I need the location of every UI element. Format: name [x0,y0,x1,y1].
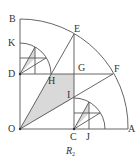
small-diag1-C [74,102,89,129]
label-H: H [48,76,55,86]
label-E: E [74,24,80,34]
small-diag1-D [20,47,35,74]
caption-subscript: 2 [72,151,75,157]
label-O: O [8,124,15,134]
label-K: K [8,38,15,48]
label-F: F [114,64,120,74]
small-arc-I [74,98,105,129]
label-A: A [128,124,135,134]
point-C [73,128,75,130]
small-diag2-D [20,58,46,74]
geometry-figure: B K D O E G F H I C J A R2 [0,0,140,160]
label-C: C [70,132,77,142]
small-diag2-C [74,113,100,129]
label-I: I [67,90,70,100]
label-G: G [78,63,85,73]
small-arc-KH [20,43,51,74]
label-B: B [9,14,16,24]
label-D: D [8,69,15,79]
point-D [19,73,21,75]
figure-caption: R2 [66,146,75,159]
label-J: J [86,132,90,142]
point-O [19,128,21,130]
